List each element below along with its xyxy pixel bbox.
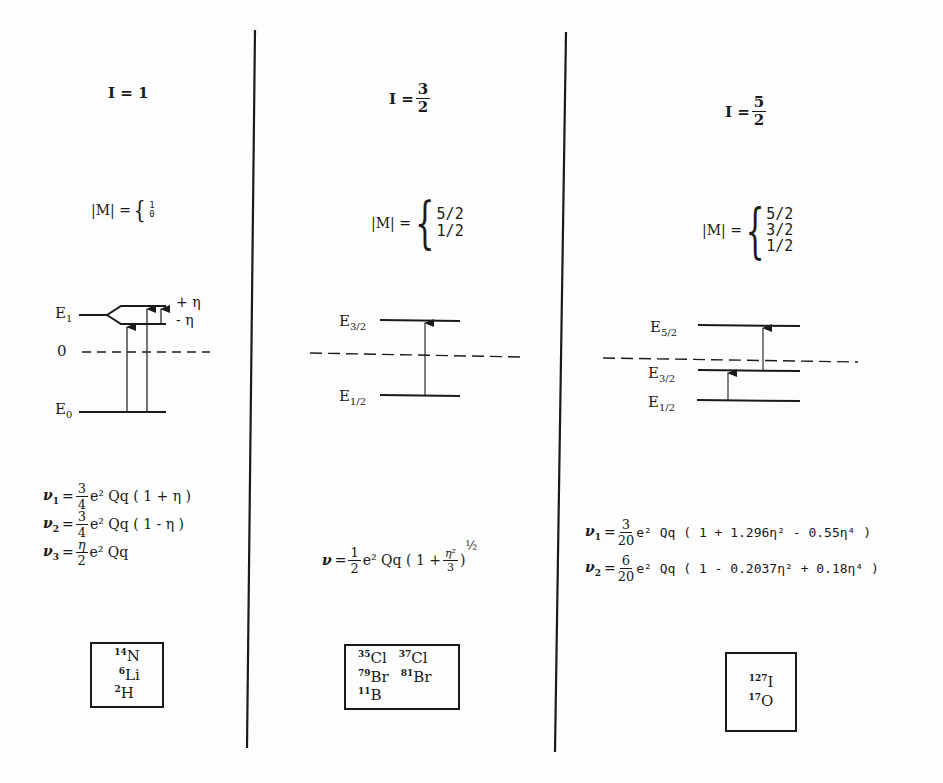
nucleus: 14N bbox=[114, 647, 140, 666]
col3-spin-label: I = 52 bbox=[725, 95, 768, 128]
col3-m-set: |M| = { 5/2 3/2 1/2 bbox=[702, 195, 793, 265]
col1-level-e0-label: E0 bbox=[55, 400, 72, 420]
m-values: 5/2 3/2 1/2 bbox=[766, 206, 793, 255]
nucleus: 79Br bbox=[358, 668, 389, 687]
nucleus: 37Cl bbox=[399, 649, 428, 668]
col2-level-e12-label: E1/2 bbox=[339, 387, 366, 407]
col1-nuclei-box: 14N 6Li 2H bbox=[90, 642, 164, 708]
col1-spin-label: I = 1 bbox=[108, 84, 148, 102]
column-divider-1 bbox=[247, 30, 255, 748]
nucleus: 35Cl bbox=[358, 649, 387, 668]
nucleus: 6Li bbox=[119, 666, 140, 685]
col3-nuclei-box: 127I 17O bbox=[725, 652, 797, 732]
col3-level-e32-label: E3/2 bbox=[648, 364, 675, 384]
m-prefix: |M| = bbox=[91, 202, 131, 218]
column-divider-2 bbox=[555, 32, 566, 752]
col1-split-minus-label: - η bbox=[176, 312, 194, 328]
col2-level-e32-label: E3/2 bbox=[339, 312, 366, 332]
col2-equation: ν= 12 e² Qq ( 1 + η²3 ) ½ bbox=[322, 540, 477, 580]
nucleus: 2H bbox=[114, 684, 133, 703]
col2-spin-label: I = 32 bbox=[389, 82, 432, 115]
col2-nuclei-box: 35Cl 37Cl 79Br 81Br 11B bbox=[344, 644, 460, 710]
col1-zero-label: 0 bbox=[57, 342, 67, 360]
brace-icon: { bbox=[133, 196, 145, 224]
nucleus: 17O bbox=[749, 692, 774, 711]
m-prefix: |M| = bbox=[371, 215, 411, 231]
col1-split-plus-label: + η bbox=[176, 294, 201, 310]
nucleus: 11B bbox=[358, 686, 382, 705]
equation-nu2: ν2= 620 e² Qq ( 1 - 0.2037η² + 0.18η⁴ ) bbox=[585, 550, 879, 586]
equation-nu1: ν1= 34 e² Qq ( 1 + η ) bbox=[43, 482, 191, 510]
exponent-half: ½ bbox=[465, 539, 477, 553]
brace-icon: { bbox=[746, 195, 765, 265]
m-prefix: |M| = bbox=[702, 222, 742, 238]
col1-equations: ν1= 34 e² Qq ( 1 + η ) ν2= 34 e² Qq ( 1 … bbox=[43, 482, 191, 566]
col3-level-e12-label: E1/2 bbox=[648, 393, 675, 413]
equation-nu1: ν1= 320 e² Qq ( 1 + 1.296η² - 0.55η⁴ ) bbox=[585, 514, 879, 550]
col3-equations: ν1= 320 e² Qq ( 1 + 1.296η² - 0.55η⁴ ) ν… bbox=[585, 514, 879, 586]
col3-level-diagram bbox=[603, 325, 858, 401]
nucleus: 127I bbox=[749, 673, 774, 692]
brace-icon: { bbox=[415, 190, 435, 255]
nucleus: 81Br bbox=[401, 668, 432, 687]
col1-m-set: |M| = { 1 0 bbox=[91, 196, 155, 224]
equation-nu3: ν3= η2 e² Qq bbox=[43, 538, 191, 566]
col3-level-e52-label: E5/2 bbox=[650, 318, 677, 338]
col2-m-set: |M| = { 5/2 1/2 bbox=[371, 190, 464, 255]
equation-nu2: ν2= 34 e² Qq ( 1 - η ) bbox=[43, 510, 191, 538]
m-values: 5/2 1/2 bbox=[437, 206, 464, 238]
m-values: 1 0 bbox=[149, 201, 154, 220]
col1-level-e1-label: E1 bbox=[55, 304, 72, 324]
